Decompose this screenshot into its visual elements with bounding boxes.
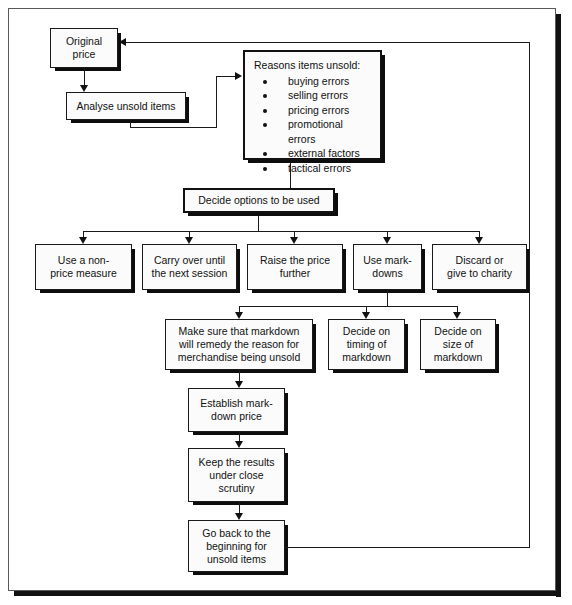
node-make-sure-remedy-label: Make sure that markdown will remedy the … xyxy=(170,325,308,364)
flowchart-figure: Original price Analyse unsold items Reas… xyxy=(0,0,572,605)
node-raise-the-price: Raise the price further xyxy=(247,244,343,290)
arrow-to-carry-over xyxy=(185,237,193,244)
connector-keep-to-go-back xyxy=(239,502,240,513)
connector-feedback-left xyxy=(126,42,530,43)
node-carry-over-label: Carry over until the next session xyxy=(147,254,232,280)
connector-feedback-up xyxy=(529,42,530,548)
connector-analyse-right xyxy=(130,127,217,128)
arrow-to-establish-price xyxy=(235,381,243,388)
node-decide-options: Decide options to be used xyxy=(183,188,335,213)
reasons-item: promotional errors xyxy=(254,117,372,146)
reasons-item: tactical errors xyxy=(254,161,372,176)
node-analyse-unsold-label: Analyse unsold items xyxy=(71,100,181,113)
connector-reasons-to-decide xyxy=(290,162,291,188)
arrow-to-raise-price xyxy=(290,237,298,244)
node-decide-size-label: Decide on size of markdown xyxy=(425,325,491,364)
node-use-non-price-measure-label: Use a non- price measure xyxy=(40,254,127,280)
node-decide-timing-of-markdown: Decide on timing of markdown xyxy=(328,319,405,370)
connector-markdowns-drop xyxy=(387,290,388,306)
arrow-to-use-markdowns xyxy=(383,237,391,244)
node-keep-results-label: Keep the results under close scrutiny xyxy=(193,456,280,495)
node-use-markdowns: Use mark- downs xyxy=(353,244,422,290)
node-original-price: Original price xyxy=(50,28,118,68)
node-make-sure-remedy: Make sure that markdown will remedy the … xyxy=(165,319,313,370)
node-original-price-label: Original price xyxy=(55,35,113,61)
node-discard-or-charity-label: Discard or give to charity xyxy=(437,254,522,280)
connector-decide-drop xyxy=(258,215,259,231)
arrow-to-discard xyxy=(475,237,483,244)
reasons-item: pricing errors xyxy=(254,103,372,118)
arrow-original-to-analyse xyxy=(80,85,88,92)
node-use-markdowns-label: Use mark- downs xyxy=(358,254,417,280)
connector-analyse-rise xyxy=(216,76,217,128)
connector-analyse-to-reasons xyxy=(216,76,236,77)
node-go-back-to-beginning: Go back to the beginning for unsold item… xyxy=(188,520,285,572)
node-use-non-price-measure: Use a non- price measure xyxy=(35,244,132,290)
reasons-list: buying errors selling errors pricing err… xyxy=(254,74,372,176)
arrow-to-decide-size xyxy=(453,312,461,319)
arrow-to-keep-results xyxy=(235,441,243,448)
node-establish-price-label: Establish mark- down price xyxy=(193,397,280,423)
node-establish-markdown-price: Establish mark- down price xyxy=(188,388,285,432)
node-decide-size-of-markdown: Decide on size of markdown xyxy=(420,319,496,370)
node-decide-options-label: Decide options to be used xyxy=(189,194,329,207)
arrow-to-go-back xyxy=(235,513,243,520)
connector-establish-to-keep xyxy=(239,432,240,441)
arrow-feedback-to-original-price xyxy=(119,38,126,46)
reasons-item: buying errors xyxy=(254,74,372,89)
node-analyse-unsold: Analyse unsold items xyxy=(66,92,186,120)
reasons-item: external factors xyxy=(254,146,372,161)
connector-options-bus xyxy=(83,231,480,232)
reasons-item: selling errors xyxy=(254,88,372,103)
node-decide-timing-label: Decide on timing of markdown xyxy=(333,325,400,364)
connector-original-to-analyse xyxy=(84,68,85,85)
node-keep-results: Keep the results under close scrutiny xyxy=(188,448,285,502)
connector-markdown-bus xyxy=(239,306,458,307)
arrow-to-decide-timing xyxy=(362,312,370,319)
arrow-to-make-sure xyxy=(235,312,243,319)
node-raise-the-price-label: Raise the price further xyxy=(252,254,338,280)
node-discard-or-charity: Discard or give to charity xyxy=(432,244,527,290)
reasons-title: Reasons items unsold: xyxy=(254,58,372,73)
page-frame-shadow-right xyxy=(556,14,561,597)
node-reasons-items-unsold: Reasons items unsold: buying errors sell… xyxy=(243,50,382,160)
node-carry-over: Carry over until the next session xyxy=(142,244,237,290)
connector-feedback-right xyxy=(285,547,530,548)
page-frame-shadow-bottom xyxy=(14,591,561,596)
arrow-to-use-non-price xyxy=(79,237,87,244)
node-go-back-label: Go back to the beginning for unsold item… xyxy=(193,527,280,566)
arrow-analyse-to-reasons xyxy=(235,72,242,80)
